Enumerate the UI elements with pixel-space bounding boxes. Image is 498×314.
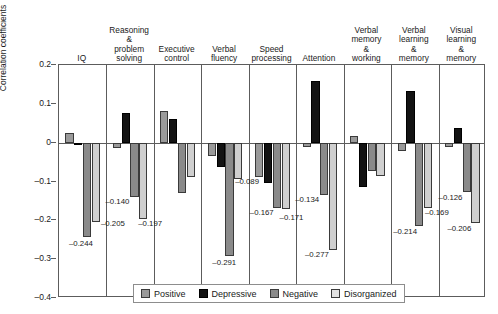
bar-positive-7 xyxy=(398,143,406,152)
legend-label: Negative xyxy=(283,289,319,299)
y-axis-tick-label: 0.1 xyxy=(21,99,51,107)
bar-depressive-3 xyxy=(217,143,225,167)
bar-value-label: –0.277 xyxy=(305,251,329,259)
bar-depressive-6 xyxy=(359,143,367,187)
legend-item-disorganized[interactable]: Disorganized xyxy=(331,289,397,299)
bar-disorganized-4 xyxy=(282,143,290,209)
bar-negative-4 xyxy=(273,143,281,208)
bar-value-label: –0.291 xyxy=(212,259,236,267)
bar-negative-5 xyxy=(320,143,328,195)
bar-depressive-1 xyxy=(122,113,130,143)
category-header: Reasoning&problemsolving xyxy=(105,26,152,63)
bar-depressive-5 xyxy=(311,81,319,142)
y-axis-tick-label: 0.2 xyxy=(21,60,51,68)
category-header: Attention xyxy=(295,54,342,63)
category-header: Visuallearning&memory xyxy=(438,26,485,63)
legend-item-depressive[interactable]: Depressive xyxy=(199,289,257,299)
category-header: Speedprocessing xyxy=(248,45,295,63)
bar-depressive-7 xyxy=(406,91,414,142)
bar-positive-8 xyxy=(445,143,453,147)
bar-value-label: –0.171 xyxy=(280,214,304,222)
y-axis-title: Correlation coefficients xyxy=(0,0,8,118)
legend-item-positive[interactable]: Positive xyxy=(141,289,186,299)
bar-value-label: –0.244 xyxy=(69,240,93,248)
legend-swatch-icon xyxy=(141,289,150,298)
chart-figure: Correlation coefficients 0.20.10–0.1–0.2… xyxy=(0,0,498,314)
y-axis-tick-mark xyxy=(51,64,56,65)
y-axis-tick-mark xyxy=(51,219,56,220)
legend-label: Depressive xyxy=(212,289,257,299)
y-axis-tick-label: –0.3 xyxy=(21,254,51,262)
bar-disorganized-1 xyxy=(139,143,147,220)
bar-positive-3 xyxy=(208,143,216,157)
bar-value-label: –0.206 xyxy=(447,225,471,233)
y-axis-tick-mark xyxy=(51,181,56,182)
bar-disorganized-8 xyxy=(471,143,479,223)
legend-label: Positive xyxy=(154,289,186,299)
category-header: Executivecontrol xyxy=(153,45,200,63)
category-header-line: processing xyxy=(248,54,295,63)
bar-value-label: –0.126 xyxy=(439,194,463,202)
bar-value-label: –0.089 xyxy=(235,178,259,186)
bar-disorganized-7 xyxy=(424,143,432,209)
category-header-row: IQReasoning&problemsolvingExecutivecontr… xyxy=(58,0,485,64)
category-header: Verbalmemory&working xyxy=(343,26,390,63)
bar-positive-6 xyxy=(350,136,358,142)
category-header: Verbalfluency xyxy=(200,45,247,63)
bar-negative-2 xyxy=(178,143,186,193)
bar-depressive-2 xyxy=(169,119,177,143)
bar-disorganized-6 xyxy=(376,143,384,176)
bar-depressive-4 xyxy=(264,143,272,183)
bar-disorganized-5 xyxy=(329,143,337,251)
bar-disorganized-3 xyxy=(234,143,242,179)
y-axis-tick-mark xyxy=(51,142,56,143)
bar-negative-0 xyxy=(83,143,91,238)
y-axis-tick-mark xyxy=(51,103,56,104)
category-header-line: Attention xyxy=(295,54,342,63)
category-header-line: solving xyxy=(105,54,152,63)
bar-value-label: –0.134 xyxy=(295,196,319,204)
group-divider xyxy=(344,65,345,296)
y-axis-tick-label: –0.1 xyxy=(21,177,51,185)
category-header-line: working xyxy=(343,54,390,63)
bar-negative-7 xyxy=(415,143,423,226)
bar-value-label: –0.167 xyxy=(250,209,274,217)
group-divider xyxy=(296,65,297,296)
y-axis-tick-mark xyxy=(51,258,56,259)
category-header: Verballearning&memory xyxy=(390,26,437,63)
y-axis-tick-label: –0.2 xyxy=(21,215,51,223)
group-divider xyxy=(391,65,392,296)
bar-value-label: –0.197 xyxy=(138,220,162,228)
legend-label: Disorganized xyxy=(344,289,397,299)
legend-swatch-icon xyxy=(270,289,279,298)
y-axis-tick-mark xyxy=(51,297,56,298)
legend-swatch-icon xyxy=(199,289,208,298)
y-axis-tick-label: 0 xyxy=(21,138,51,146)
group-divider xyxy=(439,65,440,296)
bar-negative-6 xyxy=(368,143,376,172)
group-divider xyxy=(154,65,155,296)
legend-item-negative[interactable]: Negative xyxy=(270,289,319,299)
bar-disorganized-0 xyxy=(92,143,100,223)
chart-legend: PositiveDepressiveNegativeDisorganized xyxy=(133,284,405,303)
bar-positive-4 xyxy=(255,143,263,178)
legend-swatch-icon xyxy=(331,289,340,298)
bar-depressive-8 xyxy=(454,128,462,143)
category-header-line: memory xyxy=(390,54,437,63)
bar-value-label: –0.214 xyxy=(393,228,417,236)
plot-area: –0.244–0.205–0.140–0.197–0.291–0.089–0.1… xyxy=(58,64,485,297)
bar-depressive-0 xyxy=(74,143,82,145)
bar-positive-2 xyxy=(160,111,168,143)
bar-negative-3 xyxy=(225,143,233,256)
bar-disorganized-2 xyxy=(187,143,195,177)
category-header-line: control xyxy=(153,54,200,63)
category-header-line: memory xyxy=(438,54,485,63)
bar-value-label: –0.205 xyxy=(101,220,125,228)
category-header-line: fluency xyxy=(200,54,247,63)
bar-value-label: –0.140 xyxy=(105,198,129,206)
y-axis-tick-labels: 0.20.10–0.1–0.2–0.3–0.4 xyxy=(18,64,51,297)
bar-negative-1 xyxy=(130,143,138,197)
bar-positive-5 xyxy=(303,143,311,148)
group-divider xyxy=(106,65,107,296)
y-axis-tick-label: –0.4 xyxy=(21,293,51,301)
